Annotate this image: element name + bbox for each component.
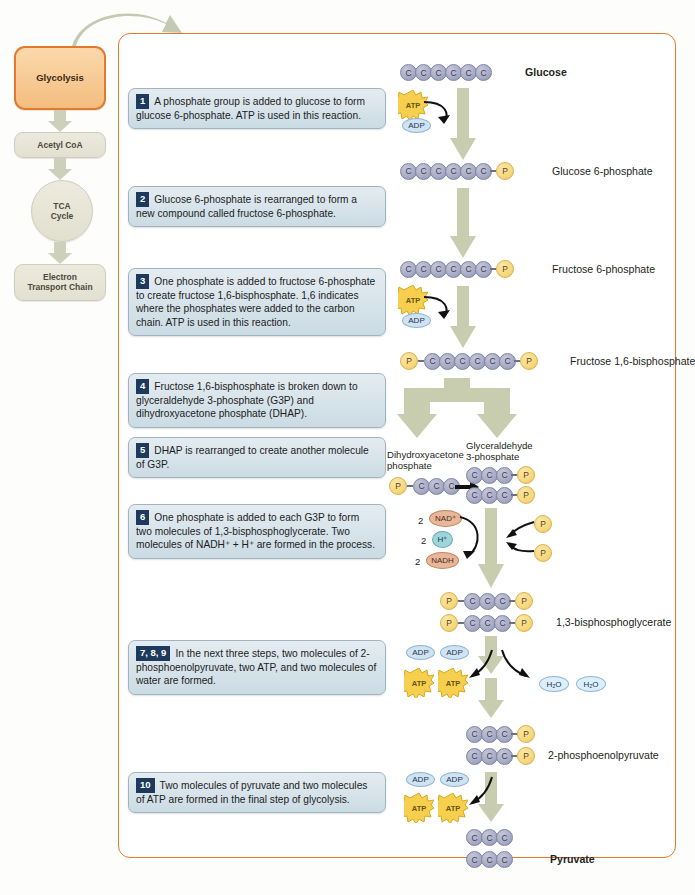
molecule-pyruvate-1: C C C xyxy=(466,829,511,846)
label-pep: 2-phosphoenolpyruvate xyxy=(548,749,659,761)
pathway-rail: Glycolysis Acetyl CoA TCACycle ElectronT… xyxy=(14,46,110,301)
molecule-pep-1: C C C P xyxy=(466,725,535,743)
nad-count: 2 xyxy=(418,515,423,526)
molecule-bpg-1: P C C C P xyxy=(440,592,533,610)
label-glucose: Glucose xyxy=(525,66,567,78)
phosphate-circle: P xyxy=(400,352,418,370)
label-bpg: 1,3-bisphosphoglycerate xyxy=(556,616,671,628)
nad-plus-label: NAD⁺ xyxy=(435,514,456,523)
label-fructose-6-phosphate: Fructose 6-phosphate xyxy=(552,263,655,275)
step-text: DHAP is rearranged to create another mol… xyxy=(136,445,369,470)
adp-label: ADP xyxy=(412,775,428,784)
phosphate-circle: P xyxy=(517,725,535,743)
carbon-circle: C xyxy=(475,64,492,81)
molecule-pep-2: C C C P xyxy=(466,747,535,765)
step-text: One phosphate is added to fructose 6-pho… xyxy=(136,276,375,328)
step-callout-789[interactable]: 7, 8, 9In the next three steps, two mole… xyxy=(128,640,386,695)
atp-label: ATP xyxy=(404,668,434,698)
water-bubble: H₂O xyxy=(576,676,606,692)
step-callout-6[interactable]: 6One phosphate is added to each G3P to f… xyxy=(128,504,386,559)
step-number: 4 xyxy=(136,379,149,394)
adp-label: ADP xyxy=(446,775,462,784)
curved-reaction-arrow-icon xyxy=(462,775,498,815)
phosphate-circle: P xyxy=(515,614,533,632)
molecule-pyruvate-2: C C C xyxy=(466,851,511,868)
phosphate-circle: P xyxy=(515,592,533,610)
fork-flow-arrow-icon xyxy=(382,378,532,448)
phosphate-circle: P xyxy=(517,747,535,765)
label-fructose-1-6-bisphosphate: Fructose 1,6-bisphosphate xyxy=(570,355,695,367)
h-plus-bubble: H⁺ xyxy=(432,531,453,548)
label-glucose-6-phosphate: Glucose 6-phosphate xyxy=(552,165,653,177)
step-number: 10 xyxy=(136,778,155,793)
molecule-fructose-6-phosphate: C C C C C C P xyxy=(400,260,514,278)
rail-arrow-icon xyxy=(14,158,106,180)
adp-bubble: ADP xyxy=(406,645,435,660)
pathway-item-label: TCACycle xyxy=(51,201,74,221)
water-label: H₂O xyxy=(583,680,598,689)
step-text: Fructose 1,6-bisphosphate is broken down… xyxy=(136,381,358,419)
pathway-item-label: Glycolysis xyxy=(36,72,84,83)
adp-label: ADP xyxy=(412,648,428,657)
step-text: Two molecules of pyruvate and two molecu… xyxy=(136,780,367,805)
label-pyruvate: Pyruvate xyxy=(550,853,595,865)
phosphate-circle: P xyxy=(517,486,535,504)
water-bubble: H₂O xyxy=(539,676,569,692)
flow-arrow-icon xyxy=(448,188,478,258)
phosphate-circle: P xyxy=(520,352,538,370)
nadh-label: NADH xyxy=(431,556,454,565)
molecule-bpg-2: P C C C P xyxy=(440,614,533,632)
molecule-glucose: C C C C C C xyxy=(400,64,490,81)
molecule-dhap: P C C C xyxy=(389,477,458,495)
molecule-g3p-1: C C C P xyxy=(466,466,535,484)
step-number: 3 xyxy=(136,274,149,289)
molecule-fructose-1-6-bisphosphate: P C C C C C C P xyxy=(400,352,538,370)
h-plus-count: 2 xyxy=(421,535,426,546)
pathway-item-glycolysis[interactable]: Glycolysis xyxy=(14,46,106,110)
water-label: H₂O xyxy=(546,680,561,689)
phosphate-circle: P xyxy=(389,477,407,495)
step-number: 1 xyxy=(136,94,149,109)
curved-reaction-arrow-icon xyxy=(456,512,490,568)
step-text: Glucose 6-phosphate is rearranged to for… xyxy=(136,194,357,219)
step-text: A phosphate group is added to glucose to… xyxy=(136,96,365,121)
h-plus-label: H⁺ xyxy=(438,535,448,544)
phosphate-circle: P xyxy=(517,466,535,484)
pathway-item-label: ElectronTransport Chain xyxy=(27,272,92,292)
curved-reaction-arrow-icon xyxy=(504,518,538,568)
phosphate-circle: P xyxy=(496,260,514,278)
step-text: In the next three steps, two molecules o… xyxy=(136,648,376,686)
molecule-glucose-6-phosphate: C C C C C C P xyxy=(400,162,514,180)
curved-reaction-arrow-icon xyxy=(418,96,460,130)
step-callout-10[interactable]: 10Two molecules of pyruvate and two mole… xyxy=(128,772,386,813)
adp-label: ADP xyxy=(446,648,462,657)
label-dhap: Dihydroxyacetonephosphate xyxy=(387,449,467,472)
adp-bubble: ADP xyxy=(406,772,435,787)
curved-reaction-arrow-icon xyxy=(498,648,542,688)
pathway-item-tca-cycle[interactable]: TCACycle xyxy=(31,180,93,242)
nadh-bubble: NADH xyxy=(426,552,459,569)
step-number: 2 xyxy=(136,192,149,207)
rail-arrow-icon xyxy=(14,110,106,132)
step-text: One phosphate is added to each G3P to fo… xyxy=(136,512,375,550)
pathway-item-label: Acetyl CoA xyxy=(37,140,82,150)
label-g3p: Glyceraldehyde3-phosphate xyxy=(466,440,556,463)
phosphate-circle: P xyxy=(440,592,458,610)
nadh-count: 2 xyxy=(415,556,420,567)
step-callout-2[interactable]: 2Glucose 6-phosphate is rearranged to fo… xyxy=(128,186,386,227)
atp-starburst-icon: ATP xyxy=(404,793,434,823)
step-number: 7, 8, 9 xyxy=(136,646,170,661)
step-callout-3[interactable]: 3One phosphate is added to fructose 6-ph… xyxy=(128,268,386,336)
curved-reaction-arrow-icon xyxy=(418,291,460,325)
step-number: 6 xyxy=(136,510,149,525)
pathway-item-electron-transport-chain[interactable]: ElectronTransport Chain xyxy=(14,264,106,301)
molecule-g3p-2: C C C P xyxy=(466,486,535,504)
phosphate-circle: P xyxy=(440,614,458,632)
step-callout-1[interactable]: 1A phosphate group is added to glucose t… xyxy=(128,88,386,129)
atp-label: ATP xyxy=(404,793,434,823)
pathway-item-acetyl-coa[interactable]: Acetyl CoA xyxy=(14,132,106,158)
phosphate-circle: P xyxy=(496,162,514,180)
step-callout-5[interactable]: 5DHAP is rearranged to create another mo… xyxy=(128,437,386,478)
step-callout-4[interactable]: 4Fructose 1,6-bisphosphate is broken dow… xyxy=(128,373,386,428)
carbon-circle: C xyxy=(496,829,513,846)
